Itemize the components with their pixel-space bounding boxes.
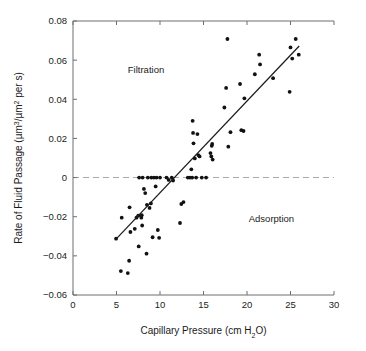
data-point bbox=[288, 90, 292, 94]
data-point bbox=[178, 221, 182, 225]
plot-canvas: 051015202530 −0.06−0.04−0.0200.020.040.0… bbox=[0, 0, 366, 351]
y-tick-label: 0.08 bbox=[49, 15, 68, 26]
data-point bbox=[120, 216, 124, 220]
data-point bbox=[158, 176, 162, 180]
data-point bbox=[229, 130, 233, 134]
data-point bbox=[142, 187, 146, 191]
data-point bbox=[204, 176, 208, 180]
data-point bbox=[210, 142, 214, 146]
data-point bbox=[140, 224, 144, 228]
data-point bbox=[155, 176, 159, 180]
regression-line bbox=[117, 46, 300, 239]
data-point bbox=[200, 176, 204, 180]
data-point bbox=[182, 200, 186, 204]
data-point bbox=[242, 96, 246, 100]
y-tick-label: 0.06 bbox=[49, 55, 68, 66]
data-point bbox=[129, 230, 133, 234]
data-point bbox=[191, 119, 195, 123]
data-point bbox=[143, 191, 147, 195]
data-point bbox=[209, 151, 213, 155]
data-point bbox=[198, 155, 202, 159]
data-point bbox=[137, 245, 141, 249]
data-point bbox=[226, 145, 230, 149]
data-point bbox=[167, 178, 171, 182]
y-tick-label: −0.04 bbox=[43, 250, 67, 261]
data-point bbox=[190, 176, 194, 180]
data-point bbox=[141, 176, 145, 180]
data-point bbox=[191, 131, 195, 135]
data-point bbox=[127, 259, 131, 263]
data-point bbox=[289, 46, 293, 50]
data-point bbox=[192, 141, 196, 145]
data-point bbox=[154, 184, 158, 188]
y-axis-ticks: −0.06−0.04−0.0200.020.040.060.08 bbox=[43, 15, 77, 300]
data-point bbox=[253, 72, 257, 76]
y-tick-label: −0.02 bbox=[43, 211, 67, 222]
data-point bbox=[226, 37, 230, 41]
data-point bbox=[242, 129, 246, 133]
y-tick-label: 0.04 bbox=[49, 94, 68, 105]
data-point bbox=[196, 132, 200, 136]
trend-line bbox=[117, 46, 300, 239]
axis-spines bbox=[73, 21, 334, 295]
x-tick-label: 20 bbox=[242, 299, 253, 310]
data-point bbox=[157, 236, 161, 240]
region-label: Adsorption bbox=[249, 213, 294, 224]
data-point bbox=[297, 53, 301, 57]
x-tick-label: 0 bbox=[70, 299, 75, 310]
data-point bbox=[194, 176, 198, 180]
data-point bbox=[133, 227, 137, 231]
data-point bbox=[238, 82, 242, 86]
y-tick-label: 0 bbox=[62, 172, 67, 183]
data-point bbox=[145, 252, 149, 256]
y-tick-label: −0.06 bbox=[43, 289, 67, 300]
data-point bbox=[156, 228, 160, 232]
data-point bbox=[294, 37, 298, 41]
data-point bbox=[189, 167, 193, 171]
x-tick-label: 10 bbox=[155, 299, 166, 310]
data-point bbox=[211, 158, 215, 162]
y-axis-title: Rate of Fluid Passage (µm3/µm2 per s) bbox=[13, 72, 25, 244]
y-tick-label: 0.02 bbox=[49, 133, 68, 144]
data-point bbox=[290, 57, 294, 61]
data-point bbox=[148, 206, 152, 210]
x-axis-title: Capillary Pressure (cm H2O) bbox=[140, 325, 266, 339]
x-tick-label: 5 bbox=[114, 299, 119, 310]
axes-frame bbox=[73, 21, 334, 295]
data-point bbox=[257, 53, 261, 57]
data-point bbox=[222, 106, 226, 110]
data-point bbox=[126, 271, 130, 275]
region-label: Filtration bbox=[128, 64, 164, 75]
x-tick-label: 15 bbox=[198, 299, 209, 310]
data-point bbox=[151, 235, 155, 239]
data-point bbox=[224, 86, 228, 90]
x-axis-ticks: 051015202530 bbox=[70, 21, 339, 310]
x-tick-label: 30 bbox=[329, 299, 340, 310]
data-point bbox=[271, 76, 275, 80]
data-point bbox=[119, 269, 123, 273]
data-point bbox=[128, 205, 132, 209]
data-point bbox=[137, 176, 141, 180]
scatter-chart-figure: 051015202530 −0.06−0.04−0.0200.020.040.0… bbox=[0, 0, 366, 351]
data-point bbox=[258, 63, 262, 67]
x-tick-label: 25 bbox=[285, 299, 296, 310]
data-point bbox=[146, 176, 150, 180]
